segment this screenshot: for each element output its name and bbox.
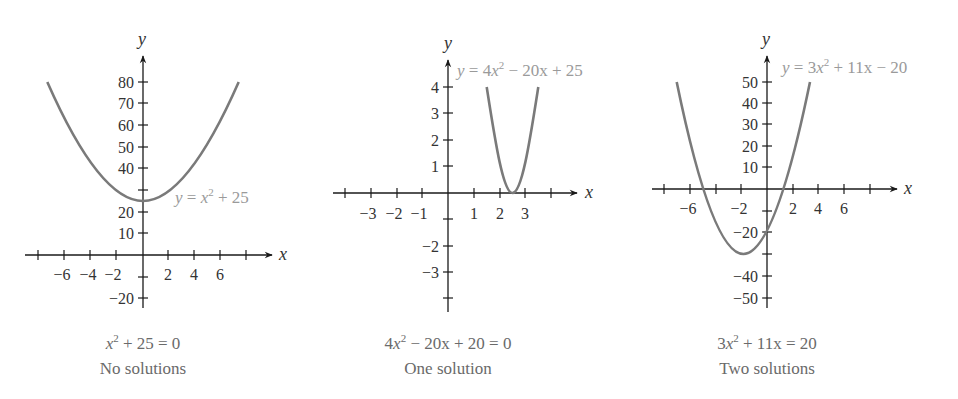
svg-text:3: 3 <box>521 205 529 222</box>
caption-3: 3x2 + 11x = 20 Two solutions <box>637 326 897 381</box>
svg-text:30: 30 <box>742 116 758 133</box>
svg-text:−20: −20 <box>733 224 758 241</box>
y-tick-labels: 50 40 30 20 10 −20 −40 −50 <box>733 74 758 307</box>
svg-text:70: 70 <box>118 95 134 112</box>
svg-text:2: 2 <box>789 200 797 217</box>
graph-1: −6 −4 −2 2 4 6 80 70 60 50 40 20 10 −20 … <box>25 29 287 308</box>
equation-label: y = 3x2 + 11x − 20 <box>780 56 907 77</box>
svg-text:10: 10 <box>742 159 758 176</box>
svg-text:20: 20 <box>118 204 134 221</box>
equation-label: y = 4x2 − 20x + 25 <box>455 59 583 80</box>
svg-text:1: 1 <box>431 158 439 175</box>
x-tick-labels: −6 −4 −2 2 4 6 <box>53 266 224 283</box>
svg-text:4: 4 <box>814 200 822 217</box>
svg-text:6: 6 <box>840 200 848 217</box>
svg-text:2: 2 <box>431 132 439 149</box>
svg-text:−40: −40 <box>733 268 758 285</box>
svg-text:40: 40 <box>742 95 758 112</box>
svg-text:−1: −1 <box>410 205 427 222</box>
svg-text:50: 50 <box>118 139 134 156</box>
x-tick-labels: −6 −2 2 4 6 <box>679 200 848 217</box>
caption-equation: 3x2 + 11x = 20 <box>637 326 897 356</box>
svg-text:−50: −50 <box>733 290 758 307</box>
svg-text:20: 20 <box>742 138 758 155</box>
svg-text:40: 40 <box>118 160 134 177</box>
svg-text:−2: −2 <box>730 200 747 217</box>
y-axis-label: y <box>760 29 770 49</box>
x-axis-label: x <box>584 182 593 202</box>
svg-text:−6: −6 <box>679 200 696 217</box>
caption-result: Two solutions <box>637 356 897 381</box>
y-axis-label: y <box>442 33 452 53</box>
svg-text:−3: −3 <box>359 205 376 222</box>
equation-label: y = x2 + 25 <box>173 186 249 207</box>
svg-text:−2: −2 <box>385 205 402 222</box>
parabola-curve <box>487 87 539 193</box>
graph-2: −3 −2 −1 1 2 3 4 3 2 1 −2 −3 x y y = 4x2… <box>333 33 593 312</box>
y-tick-labels: 4 3 2 1 −2 −3 <box>422 79 439 281</box>
svg-text:−4: −4 <box>79 266 96 283</box>
caption-2: 4x2 − 20x + 20 = 0 One solution <box>318 326 578 381</box>
svg-text:−2: −2 <box>104 266 121 283</box>
svg-text:50: 50 <box>742 74 758 91</box>
caption-equation: x2 + 25 = 0 <box>13 326 273 356</box>
graph-3: −6 −2 2 4 6 50 40 30 20 10 −20 −40 −50 x… <box>652 29 912 308</box>
svg-text:80: 80 <box>118 74 134 91</box>
caption-equation: 4x2 − 20x + 20 = 0 <box>318 326 578 356</box>
caption-1: x2 + 25 = 0 No solutions <box>13 326 273 381</box>
svg-text:−3: −3 <box>422 264 439 281</box>
svg-text:−20: −20 <box>109 290 134 307</box>
svg-text:2: 2 <box>164 266 172 283</box>
svg-text:−6: −6 <box>53 266 70 283</box>
svg-text:10: 10 <box>118 225 134 242</box>
svg-text:60: 60 <box>118 117 134 134</box>
svg-text:6: 6 <box>216 266 224 283</box>
svg-text:−2: −2 <box>422 238 439 255</box>
svg-text:2: 2 <box>496 205 504 222</box>
x-axis-label: x <box>903 178 912 198</box>
svg-text:4: 4 <box>431 79 439 96</box>
caption-result: One solution <box>318 356 578 381</box>
svg-text:1: 1 <box>470 205 478 222</box>
svg-text:3: 3 <box>431 105 439 122</box>
y-axis-label: y <box>136 29 146 49</box>
caption-result: No solutions <box>13 356 273 381</box>
svg-text:4: 4 <box>190 266 198 283</box>
x-axis-label: x <box>278 244 287 264</box>
